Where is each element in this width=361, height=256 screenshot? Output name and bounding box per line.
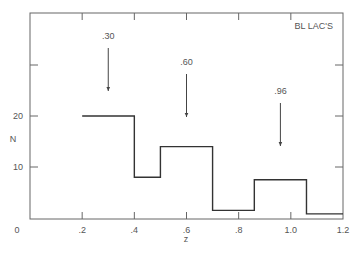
- y-tick-label: 20: [13, 111, 23, 121]
- y-axis-label: N: [10, 134, 17, 144]
- redshift-annotations: .30.60.96: [102, 31, 287, 146]
- histogram-chart: .30.60.96 0.2.4.6.81.01.21020 BL LAC'S z…: [0, 0, 361, 256]
- annotation-label: .30: [102, 31, 115, 41]
- annotation-label: .60: [180, 57, 193, 67]
- x-tick-label: .4: [131, 225, 139, 235]
- x-tick-label: 1.0: [285, 225, 298, 235]
- annotation-label: .96: [274, 86, 287, 96]
- axis-labels: 0.2.4.6.81.01.21020: [13, 111, 349, 235]
- y-tick-label: 10: [13, 162, 23, 172]
- x-tick-label: 0: [14, 225, 19, 235]
- histogram-steps: [82, 116, 343, 214]
- x-axis-label: z: [184, 234, 189, 244]
- x-tick-label: 1.2: [337, 225, 350, 235]
- x-tick-label: .2: [78, 225, 86, 235]
- chart-title: BL LAC'S: [295, 21, 333, 31]
- x-tick-label: .8: [235, 225, 243, 235]
